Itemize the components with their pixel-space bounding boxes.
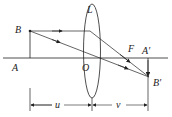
label-L: L <box>86 4 93 15</box>
label-B: B <box>15 24 21 35</box>
label-O: O <box>82 62 89 73</box>
label-A: A <box>11 62 19 73</box>
lens-diagram: L B A O F A′ B′ u v <box>0 0 172 117</box>
label-F: F <box>127 43 135 54</box>
label-u: u <box>55 99 60 110</box>
label-v: v <box>116 99 121 110</box>
label-B-prime: B′ <box>153 77 162 88</box>
convex-lens <box>84 4 101 98</box>
label-A-prime: A′ <box>141 45 151 56</box>
